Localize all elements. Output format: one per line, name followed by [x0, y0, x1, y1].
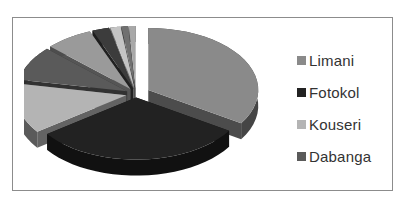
- legend-item-fotokol: Fotokol: [297, 76, 371, 108]
- legend: Limani Fotokol Kouseri Dabanga: [297, 44, 371, 172]
- legend-label: Kouseri: [309, 116, 361, 133]
- legend-label: Dabanga: [309, 148, 371, 165]
- legend-label: Fotokol: [309, 84, 360, 101]
- legend-swatch-icon: [297, 152, 306, 161]
- pie-chart-svg: [24, 22, 274, 182]
- legend-swatch-icon: [297, 88, 306, 97]
- legend-item-limani: Limani: [297, 44, 371, 76]
- pie-chart: [24, 22, 274, 182]
- legend-label: Limani: [309, 52, 354, 69]
- legend-item-dabanga: Dabanga: [297, 140, 371, 172]
- legend-item-kouseri: Kouseri: [297, 108, 371, 140]
- legend-swatch-icon: [297, 120, 306, 129]
- legend-swatch-icon: [297, 56, 306, 65]
